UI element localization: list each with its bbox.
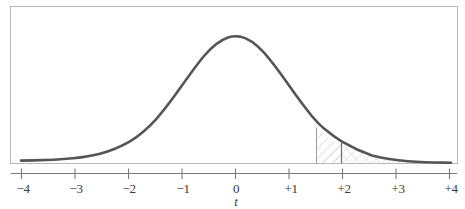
x-tick-label-minus2: −2 bbox=[122, 181, 135, 197]
plot-canvas bbox=[0, 0, 465, 209]
x-tick-label-minus3: −3 bbox=[69, 181, 82, 197]
t-distribution-figure: −4 −3 −2 −1 0 +1 +2 +3 +4 t bbox=[0, 0, 465, 209]
x-tick-label-plus4: +4 bbox=[444, 181, 457, 197]
x-tick-label-minus1: −1 bbox=[176, 181, 189, 197]
x-tick-label-minus4: −4 bbox=[16, 181, 29, 197]
x-tick-label-plus2: +2 bbox=[337, 181, 350, 197]
x-tick-label-plus3: +3 bbox=[391, 181, 404, 197]
x-tick-label-plus1: +1 bbox=[284, 181, 297, 197]
x-axis-title: t bbox=[234, 194, 238, 209]
plot-frame bbox=[11, 7, 458, 164]
